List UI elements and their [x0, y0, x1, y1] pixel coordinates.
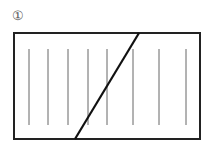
diagram-canvas	[0, 0, 214, 161]
